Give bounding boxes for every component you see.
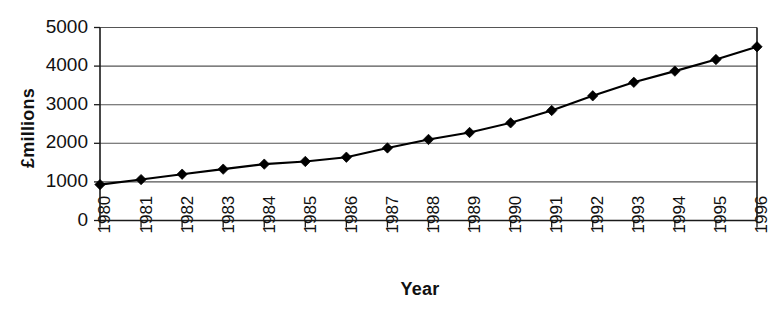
x-tick-label: 1984 — [260, 196, 279, 234]
x-tick-label: 1996 — [752, 196, 771, 234]
x-tick-label: 1981 — [137, 196, 156, 234]
x-tick-label: 1991 — [547, 196, 566, 234]
x-tick-label: 1987 — [383, 196, 402, 234]
y-tick-label: 4000 — [46, 54, 88, 75]
x-axis-title: Year — [401, 279, 440, 299]
x-tick-label: 1993 — [629, 196, 648, 234]
plot-background — [0, 0, 783, 312]
x-tick-label: 1994 — [670, 196, 689, 234]
x-tick-label: 1995 — [711, 196, 730, 234]
x-tick-label: 1992 — [588, 196, 607, 234]
x-tick-label: 1983 — [219, 196, 238, 234]
line-chart: 010002000300040005000 198019811982198319… — [0, 0, 783, 312]
y-tick-label: 5000 — [46, 16, 88, 37]
x-tick-label: 1980 — [95, 196, 114, 234]
x-tick-label: 1986 — [342, 196, 361, 234]
y-tick-label: 2000 — [46, 131, 88, 152]
chart-container: 010002000300040005000 198019811982198319… — [0, 0, 783, 312]
x-tick-label: 1990 — [506, 196, 525, 234]
y-tick-label: 0 — [77, 209, 88, 230]
x-tick-label: 1985 — [301, 196, 320, 234]
y-tick-label: 1000 — [46, 170, 88, 191]
y-axis-title: £millions — [18, 88, 38, 168]
y-tick-label: 3000 — [46, 93, 88, 114]
x-tick-label: 1988 — [424, 196, 443, 234]
x-tick-label: 1982 — [178, 196, 197, 234]
x-tick-label: 1989 — [465, 196, 484, 234]
